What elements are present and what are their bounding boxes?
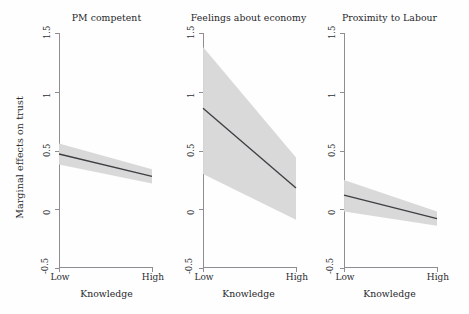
y-tick-label: 1 [184,86,198,96]
y-tick-label: 0.5 [184,145,198,155]
y-axis-label: Marginal effects on trust [6,0,32,314]
y-tick-label: -0.5 [323,262,337,272]
series-plot [203,33,297,268]
panel-title: Feelings about economy [186,12,311,23]
x-tick-label-high: High [424,272,452,282]
x-axis-title: Knowledge [327,288,452,299]
confidence-band [344,180,437,226]
series-plot [59,33,153,268]
y-tick-label: -0.5 [182,262,196,272]
y-tick-label: 0.5 [325,145,339,155]
y-tick-label: 0 [325,203,339,213]
x-tick-label-high: High [139,272,167,282]
panel-feelings-about-economy: Feelings about economy 1.5 1 0.5 0 -0.5 … [186,0,311,314]
y-tick-label: 1.5 [40,27,54,37]
marginal-effects-figure: Marginal effects on trust PM competent 1… [0,0,469,314]
x-axis-title: Knowledge [186,288,311,299]
plot-area: 1.5 1 0.5 0 -0.5 [59,33,153,268]
confidence-band [59,143,152,183]
x-tick-label-high: High [283,272,311,282]
series-plot [344,33,438,268]
x-tick-label-low: Low [47,272,73,282]
y-tick-label: 0 [40,203,54,213]
y-tick-label: 1 [325,86,339,96]
y-tick-label: 0.5 [40,145,54,155]
x-axis-title: Knowledge [44,288,169,299]
y-tick-label: -0.5 [38,262,52,272]
y-tick-label: 1 [40,86,54,96]
x-tick-label-low: Low [332,272,358,282]
y-tick-label: 0 [184,203,198,213]
confidence-band [203,47,296,220]
y-tick-label: 1.5 [325,27,339,37]
panel-pm-competent: PM competent 1.5 1 0.5 0 -0.5 Low High K… [44,0,169,314]
panel-title: PM competent [44,12,169,23]
panel-proximity-to-labour: Proximity to Labour 1.5 1 0.5 0 -0.5 Low… [327,0,452,314]
y-tick-label: 1.5 [184,27,198,37]
panel-title: Proximity to Labour [327,12,452,23]
plot-area: 1.5 1 0.5 0 -0.5 [203,33,297,268]
plot-area: 1.5 1 0.5 0 -0.5 [344,33,438,268]
x-tick-label-low: Low [191,272,217,282]
